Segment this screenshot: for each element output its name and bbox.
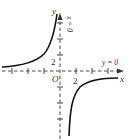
hyperbola-graph: y x O 2 2 x = 0 y = 0 bbox=[0, 0, 131, 139]
x-axis-arrow-icon bbox=[117, 69, 124, 74]
x-axis-label: x bbox=[119, 74, 124, 84]
y-tick-label: 2 bbox=[51, 57, 56, 67]
x-axis bbox=[2, 68, 124, 74]
x-tick-label: 2 bbox=[73, 76, 78, 86]
y-axis-label: y bbox=[51, 6, 56, 16]
origin-label: O bbox=[52, 74, 59, 84]
curve-branch-left bbox=[2, 14, 57, 67]
y-axis-arrow-icon bbox=[58, 13, 63, 20]
horizontal-asymptote-label: y = 0 bbox=[101, 58, 118, 67]
curve-branch-right bbox=[69, 78, 118, 136]
vertical-asymptote-label: x = 0 bbox=[65, 15, 74, 32]
